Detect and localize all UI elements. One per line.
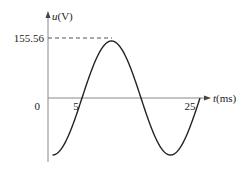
y-tick-label: 155.56 bbox=[14, 32, 45, 44]
sine-chart: u(V) 155.56 0 5 25 t(ms) bbox=[0, 0, 241, 175]
y-axis-arrow-icon bbox=[46, 11, 51, 18]
y-axis-label: u(V) bbox=[52, 10, 73, 23]
x-tick-label-25: 25 bbox=[185, 100, 197, 112]
x-tick-label-5: 5 bbox=[73, 100, 79, 112]
x-axis-arrow-icon bbox=[204, 96, 211, 101]
x-axis-label: t(ms) bbox=[213, 92, 237, 105]
origin-label: 0 bbox=[35, 100, 41, 112]
